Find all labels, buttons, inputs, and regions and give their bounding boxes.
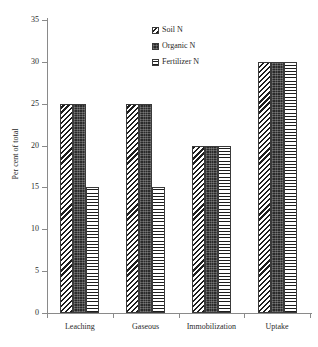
- x-category-label: Leaching: [47, 322, 113, 331]
- legend-label: Fertilizer N: [162, 58, 199, 66]
- bar: [73, 104, 86, 313]
- bar: [152, 187, 165, 313]
- x-category-label: Uptake: [244, 322, 310, 331]
- y-tick-label: 0: [35, 309, 39, 317]
- bar-chart: Per cent of total 05101520253035 Leachin…: [0, 0, 318, 347]
- x-axis-line: [47, 313, 312, 314]
- bar: [86, 187, 99, 313]
- bar: [126, 104, 139, 313]
- x-category-label: Gaseous: [113, 322, 179, 331]
- y-tick-label: 10: [31, 225, 39, 233]
- legend-label: Soil N: [162, 26, 183, 34]
- x-tick: [244, 313, 245, 318]
- legend-swatch-icon: [152, 59, 159, 66]
- chart-legend: Soil NOrganic NFertilizer N: [152, 22, 199, 70]
- x-tick: [113, 313, 114, 318]
- y-tick-label: 30: [31, 58, 39, 66]
- legend-label: Organic N: [162, 42, 195, 50]
- x-tick: [310, 313, 311, 318]
- bar: [258, 62, 271, 313]
- bar: [218, 146, 231, 313]
- legend-item: Organic N: [152, 38, 199, 54]
- y-tick-label: 15: [31, 183, 39, 191]
- bar: [139, 104, 152, 313]
- bar: [271, 62, 284, 313]
- legend-item: Fertilizer N: [152, 54, 199, 70]
- bar: [205, 146, 218, 313]
- legend-item: Soil N: [152, 22, 199, 38]
- legend-swatch-icon: [152, 27, 159, 34]
- x-tick: [47, 313, 48, 318]
- bar: [192, 146, 205, 313]
- y-axis-title: Per cent of total: [12, 104, 20, 204]
- x-category-label: Immobilization: [179, 322, 245, 331]
- legend-swatch-icon: [152, 43, 159, 50]
- y-tick-label: 25: [31, 100, 39, 108]
- y-tick-label: 35: [31, 16, 39, 24]
- y-tick-label: 5: [35, 267, 39, 275]
- y-tick-label: 20: [31, 142, 39, 150]
- bar: [284, 62, 297, 313]
- bar: [60, 104, 73, 313]
- x-tick: [179, 313, 180, 318]
